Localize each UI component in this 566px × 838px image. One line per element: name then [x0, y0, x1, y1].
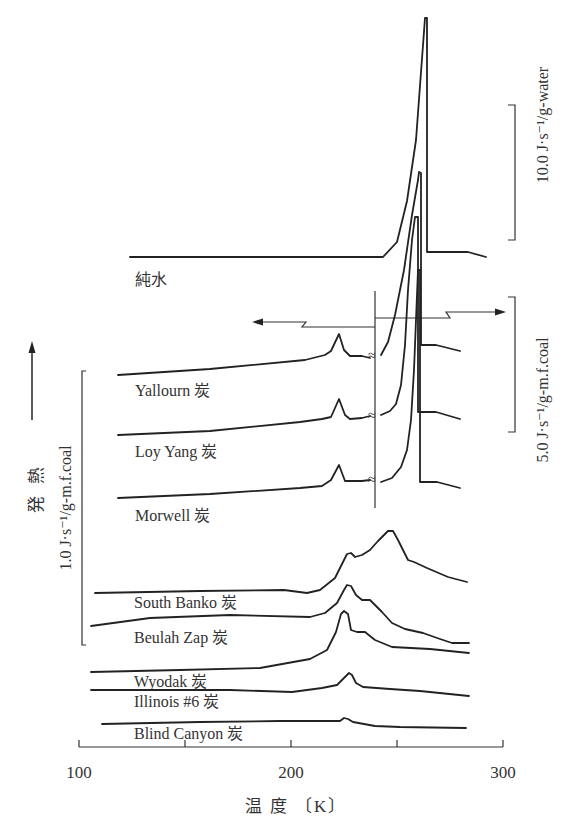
curve-loyyang — [118, 399, 370, 435]
scale-bar-coal-low: 1.0 J·s⁻¹/g-m.f.coal — [57, 371, 86, 645]
x-tick-100: 100 — [66, 763, 92, 782]
scale-bar-coal-high: 5.0 J·s⁻¹/g-m.f.coal — [508, 297, 552, 463]
scale-bar-water: 10.0 J·s⁻¹/g-water — [508, 66, 552, 240]
break-mark: ≈ — [368, 408, 376, 423]
curve-water — [130, 18, 486, 257]
label-loyyang: Loy Yang 炭 — [135, 443, 217, 461]
break-mark: ≈ — [368, 348, 376, 363]
arrow-right-icon — [495, 309, 506, 316]
scale-coal-high-label: 5.0 J·s⁻¹/g-m.f.coal — [534, 337, 552, 463]
label-blindcanyon: Blind Canyon 炭 — [134, 725, 243, 743]
curve-yallourn — [118, 334, 370, 375]
x-axis: 100 200 300 温 度 〔K〕 — [66, 740, 516, 816]
arrow-up-icon — [29, 341, 36, 353]
scale-water-label: 10.0 J·s⁻¹/g-water — [534, 66, 552, 183]
curve-morwell-high — [381, 270, 460, 488]
label-beulahzap: Beulah Zap 炭 — [134, 629, 228, 647]
curve-morwell — [118, 465, 370, 498]
label-wyodak: Wyodak 炭 — [134, 673, 207, 691]
label-morwell: Morwell 炭 — [135, 507, 210, 524]
label-water: 純水 — [135, 271, 167, 288]
break-mark: ≈ — [368, 472, 376, 487]
arrow-left-icon — [252, 319, 263, 326]
x-axis-title: 温 度 〔K〕 — [245, 797, 348, 816]
x-tick-200: 200 — [278, 763, 304, 782]
label-southbanko: South Banko 炭 — [134, 594, 237, 611]
label-illinois: Illinois #6 炭 — [134, 693, 219, 710]
curve-southbanko — [95, 531, 467, 593]
y-axis-label-group: 発 熱 — [27, 341, 46, 513]
dsc-chart: 100 200 300 温 度 〔K〕 発 熱 1.0 J·s⁻¹/g-m.f.… — [0, 0, 566, 838]
arrow-left-indicator — [252, 319, 375, 328]
scale-coal-low-label: 1.0 J·s⁻¹/g-m.f.coal — [57, 445, 75, 571]
label-yallourn: Yallourn 炭 — [135, 382, 210, 399]
x-tick-300: 300 — [490, 763, 516, 782]
y-axis-title: 発 熱 — [27, 463, 46, 513]
